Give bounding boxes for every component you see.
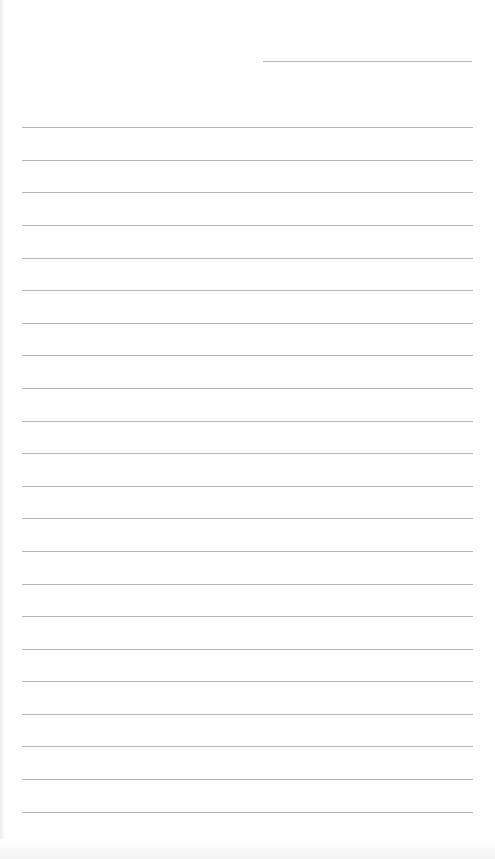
ruled-line — [22, 518, 473, 519]
ruled-line — [22, 421, 473, 422]
ruled-line — [22, 616, 473, 617]
ruled-line — [22, 584, 473, 585]
ruled-line — [22, 127, 473, 128]
ruled-line — [22, 551, 473, 552]
ruled-line — [22, 486, 473, 487]
ruled-line — [22, 779, 473, 780]
ruled-line — [22, 258, 473, 259]
ruled-line — [22, 290, 473, 291]
ruled-line — [22, 192, 473, 193]
ruled-line — [22, 453, 473, 454]
header-date-line — [263, 61, 472, 62]
ruled-line — [22, 714, 473, 715]
ruled-line — [22, 355, 473, 356]
ruled-line — [22, 746, 473, 747]
ruled-line — [22, 160, 473, 161]
ruled-line — [22, 812, 473, 813]
ruled-line — [22, 323, 473, 324]
ruled-line — [22, 649, 473, 650]
ruled-line — [22, 388, 473, 389]
ruled-line — [22, 681, 473, 682]
page-edge-shadow — [0, 0, 5, 859]
page-bottom-shade — [0, 839, 495, 859]
ruled-line — [22, 225, 473, 226]
